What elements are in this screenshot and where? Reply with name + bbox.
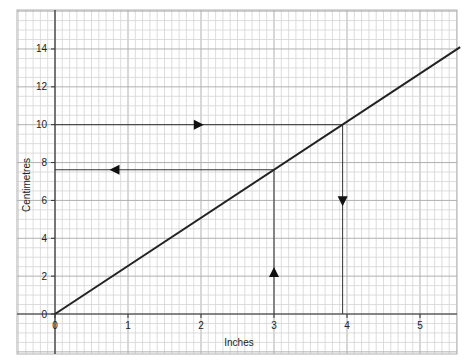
x-axis-label: Inches: [224, 337, 253, 348]
x-tick-label: 5: [417, 320, 423, 331]
y-tick-label: 12: [36, 81, 48, 92]
graph-paper-grid: [17, 10, 457, 354]
arrow-right-icon: [194, 120, 204, 130]
arrow-up-icon: [269, 267, 279, 277]
x-tick-label: 3: [271, 320, 277, 331]
arrow-left-icon: [110, 165, 120, 175]
y-tick-label: 10: [36, 119, 48, 130]
y-tick-label: 4: [41, 233, 47, 244]
conversion-chart: 01234502468101214 Inches Centimetres: [0, 0, 468, 364]
x-tick-label: 0: [52, 320, 58, 331]
y-tick-label: 8: [41, 157, 47, 168]
x-tick-label: 4: [344, 320, 350, 331]
y-axis-label: Centimetres: [21, 158, 32, 212]
y-tick-label: 0: [41, 309, 47, 320]
x-tick-label: 2: [198, 320, 204, 331]
y-tick-label: 14: [36, 43, 48, 54]
arrow-down-icon: [338, 196, 348, 206]
y-tick-label: 6: [41, 195, 47, 206]
x-tick-label: 1: [125, 320, 131, 331]
y-tick-label: 2: [41, 271, 47, 282]
